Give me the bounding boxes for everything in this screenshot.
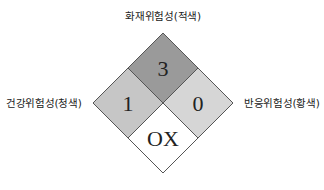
reactivity-value: 0 xyxy=(193,91,204,116)
hazard-diamond: 3 1 0 OX xyxy=(0,0,324,190)
health-value: 1 xyxy=(123,91,134,116)
flammability-value: 3 xyxy=(158,56,169,81)
special-value: OX xyxy=(147,126,179,151)
